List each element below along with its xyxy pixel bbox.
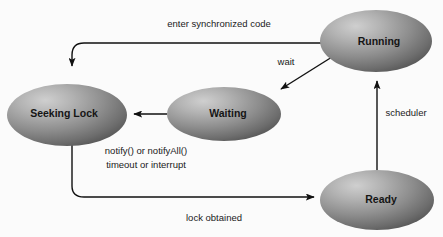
thread-state-diagram: enter synchronized code wait notify() or… — [0, 0, 443, 237]
transition-wait: wait — [277, 56, 332, 89]
edge-label-enter-synchronized-code: enter synchronized code — [167, 18, 271, 29]
state-node-waiting[interactable]: Waiting — [167, 87, 281, 141]
edge-label-scheduler: scheduler — [385, 107, 426, 118]
transition-scheduler: scheduler — [377, 81, 427, 172]
edge-label-notify-or-notifyall: notify() or notifyAll() — [105, 145, 187, 156]
diagram-canvas: enter synchronized code wait notify() or… — [0, 0, 443, 237]
edge-label-wait: wait — [277, 56, 295, 67]
state-node-ready[interactable]: Ready — [320, 170, 434, 230]
state-label-ready: Ready — [365, 193, 397, 205]
state-label-running: Running — [358, 35, 401, 47]
state-label-waiting: Waiting — [209, 107, 247, 119]
transition-lock-obtained: lock obtained — [72, 145, 314, 223]
state-node-running[interactable]: Running — [320, 10, 432, 72]
edge-label-lock-obtained: lock obtained — [186, 212, 242, 223]
state-label-seeking-lock: Seeking Lock — [30, 107, 98, 119]
state-node-seeking-lock[interactable]: Seeking Lock — [7, 84, 127, 146]
edge-label-timeout-or-interrupt: timeout or interrupt — [106, 159, 186, 170]
